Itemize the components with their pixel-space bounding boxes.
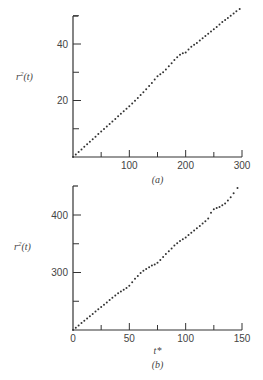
y-tick-label: 400 bbox=[51, 210, 68, 221]
data-point bbox=[157, 75, 159, 77]
data-point bbox=[137, 97, 139, 99]
y-tick-label: 20 bbox=[57, 95, 69, 106]
data-point bbox=[114, 118, 116, 120]
data-point bbox=[81, 322, 83, 324]
data-point bbox=[168, 250, 170, 252]
data-point bbox=[120, 291, 122, 293]
data-point bbox=[185, 236, 187, 238]
data-point bbox=[114, 295, 116, 297]
data-point bbox=[151, 82, 153, 84]
data-point bbox=[224, 19, 226, 21]
data-point bbox=[75, 327, 77, 329]
data-point bbox=[103, 128, 105, 130]
data-point bbox=[140, 272, 142, 274]
data-point bbox=[157, 262, 159, 264]
data-point bbox=[162, 71, 164, 73]
data-point bbox=[210, 212, 212, 214]
data-point bbox=[106, 126, 108, 128]
data-point bbox=[213, 208, 215, 210]
data-point bbox=[165, 253, 167, 255]
data-point bbox=[78, 151, 80, 153]
data-point bbox=[89, 141, 91, 143]
data-point bbox=[230, 196, 232, 198]
data-point bbox=[173, 59, 175, 61]
data-point bbox=[159, 259, 161, 261]
data-point bbox=[131, 103, 133, 105]
data-point bbox=[196, 42, 198, 44]
panel-label: (b) bbox=[152, 359, 164, 371]
data-point bbox=[154, 263, 156, 265]
data-point bbox=[182, 238, 184, 240]
data-point bbox=[199, 40, 201, 42]
data-point bbox=[126, 287, 128, 289]
data-point bbox=[142, 91, 144, 93]
data-point bbox=[221, 21, 223, 23]
data-point bbox=[239, 8, 241, 10]
data-point bbox=[111, 120, 113, 122]
data-point bbox=[111, 297, 113, 299]
data-point bbox=[78, 324, 80, 326]
data-point bbox=[151, 265, 153, 267]
data-point bbox=[95, 136, 97, 138]
data-point bbox=[128, 285, 130, 287]
data-point bbox=[97, 133, 99, 135]
data-point bbox=[219, 206, 221, 208]
data-point bbox=[216, 207, 218, 209]
data-point bbox=[224, 203, 226, 205]
data-point bbox=[235, 10, 237, 12]
data-point bbox=[120, 113, 122, 115]
data-point bbox=[92, 138, 94, 140]
data-point bbox=[227, 200, 229, 202]
y-tick-label: 300 bbox=[51, 267, 68, 278]
data-point bbox=[145, 88, 147, 90]
y-tick-label: 40 bbox=[57, 39, 69, 50]
data-point bbox=[103, 304, 105, 306]
data-point bbox=[216, 26, 218, 28]
data-point bbox=[230, 15, 232, 17]
data-point bbox=[207, 33, 209, 35]
data-point bbox=[207, 217, 209, 219]
x-tick-label: 300 bbox=[234, 160, 251, 171]
data-point bbox=[134, 278, 136, 280]
data-point bbox=[188, 234, 190, 236]
y-axis-label: r2(t) bbox=[16, 70, 34, 83]
data-point bbox=[204, 220, 206, 222]
data-point bbox=[193, 44, 195, 46]
chart-a: 1002003002040r2(t)(a) bbox=[16, 8, 251, 186]
y-axis-label: r2(t) bbox=[14, 240, 32, 253]
data-point bbox=[227, 17, 229, 19]
data-point bbox=[148, 266, 150, 268]
data-point bbox=[182, 52, 184, 54]
data-point bbox=[204, 35, 206, 37]
data-point bbox=[196, 227, 198, 229]
data-point bbox=[210, 31, 212, 33]
figure: 1002003002040r2(t)(a) 050100150300400r2(… bbox=[0, 0, 263, 380]
data-point bbox=[173, 245, 175, 247]
x-tick-label: 0 bbox=[70, 333, 76, 344]
data-point bbox=[123, 289, 125, 291]
data-point bbox=[188, 49, 190, 51]
data-point bbox=[190, 232, 192, 234]
data-point bbox=[86, 143, 88, 145]
data-point bbox=[109, 299, 111, 301]
data-point bbox=[159, 73, 161, 75]
data-point bbox=[219, 24, 221, 26]
data-point bbox=[145, 268, 147, 270]
data-point bbox=[117, 292, 119, 294]
data-point bbox=[89, 315, 91, 317]
data-point bbox=[95, 311, 97, 313]
chart-b: 050100150300400r2(t)t*(b) bbox=[14, 186, 251, 371]
data-point bbox=[86, 318, 88, 320]
data-point bbox=[168, 65, 170, 67]
data-point bbox=[92, 313, 94, 315]
x-tick-label: 50 bbox=[124, 333, 136, 344]
x-tick-label: 100 bbox=[177, 333, 194, 344]
data-point bbox=[213, 28, 215, 30]
data-point bbox=[128, 105, 130, 107]
data-point bbox=[81, 148, 83, 150]
data-point bbox=[179, 54, 181, 56]
data-point bbox=[202, 223, 204, 225]
data-point bbox=[148, 85, 150, 87]
data-point bbox=[165, 68, 167, 70]
data-point bbox=[154, 79, 156, 81]
